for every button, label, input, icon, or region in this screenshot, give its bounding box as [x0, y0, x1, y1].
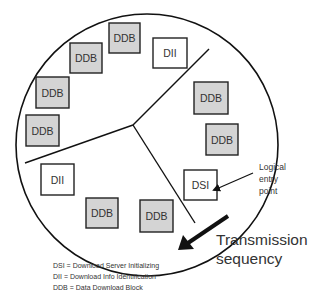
entry-pointer-arrow [214, 173, 253, 190]
module-box-ddb: DDB [86, 198, 118, 228]
box-label: DDB [211, 134, 233, 146]
module-boxes: DDBDIIDDBDDBDDBDDBDDBDSIDIIDDBDDB [26, 23, 238, 232]
entry-label-line-3: point [259, 186, 278, 196]
module-box-ddb: DDB [26, 115, 59, 146]
box-label: DDB [91, 207, 113, 219]
box-label: DDB [31, 125, 53, 137]
module-box-dsi: DSI [184, 170, 217, 200]
diagram-canvas: DDBDIIDDBDDBDDBDDBDDBDSIDIIDDBDDB Logica… [0, 0, 320, 303]
box-label: DII [51, 174, 64, 186]
entry-label-line-1: Logical [259, 162, 286, 172]
box-label: DDB [41, 87, 63, 99]
entry-label-line-2: entry [259, 174, 279, 184]
module-box-ddb: DDB [194, 82, 228, 114]
legend-ddb: DDB = Data Download Block [53, 284, 143, 291]
box-label: DII [163, 47, 176, 59]
box-label: DDB [145, 210, 167, 222]
legend-dii: DII = Download Info Identification [53, 273, 156, 280]
transmission-label-line-1: Transmission [216, 231, 308, 248]
module-box-dii: DII [41, 164, 74, 195]
box-label: DDB [200, 92, 222, 104]
module-box-ddb: DDB [140, 200, 173, 232]
carousel-diagram: DDBDIIDDBDDBDDBDDBDDBDSIDIIDDBDDB Logica… [0, 0, 320, 303]
transmission-label-line-2: sequency [216, 250, 283, 267]
box-label: DSI [192, 179, 210, 191]
legend-dsi: DSI = Download Server Initializing [53, 262, 159, 270]
module-box-ddb: DDB [70, 43, 102, 73]
module-box-ddb: DDB [109, 23, 140, 53]
module-box-ddb: DDB [206, 124, 238, 155]
box-label: DDB [113, 32, 135, 44]
module-box-dii: DII [153, 38, 187, 68]
box-label: DDB [75, 52, 97, 64]
module-box-ddb: DDB [36, 77, 69, 108]
